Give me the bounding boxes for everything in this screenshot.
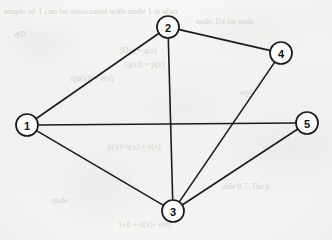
graph-edge-2-4 xyxy=(178,29,271,50)
graph-edge-2-3 xyxy=(168,38,172,201)
graph-node-label-4: 4 xyxy=(278,48,285,60)
graph-edge-1-5 xyxy=(38,123,297,125)
graph-node-4[interactable]: 4 xyxy=(270,42,292,64)
graph-node-label-2: 2 xyxy=(165,22,171,34)
graph-node-label-5: 5 xyxy=(304,118,310,130)
graph-edge-3-4 xyxy=(179,62,275,203)
graph-node-1[interactable]: 1 xyxy=(16,114,38,136)
edges-group xyxy=(36,29,299,205)
figure-canvas: ample of 1 can be associated with node 1… xyxy=(0,0,332,240)
graph-node-2[interactable]: 2 xyxy=(157,16,179,38)
graph-node-label-1: 1 xyxy=(24,120,30,132)
graph-node-3[interactable]: 3 xyxy=(162,200,184,222)
graph-node-5[interactable]: 5 xyxy=(296,112,318,134)
graph-edge-1-2 xyxy=(36,33,160,119)
graph-node-label-3: 3 xyxy=(170,206,176,218)
graph-edge-1-3 xyxy=(36,130,164,205)
graph-diagram: 12345 xyxy=(0,0,332,240)
graph-edge-3-5 xyxy=(182,129,298,205)
nodes-group: 12345 xyxy=(16,16,318,222)
